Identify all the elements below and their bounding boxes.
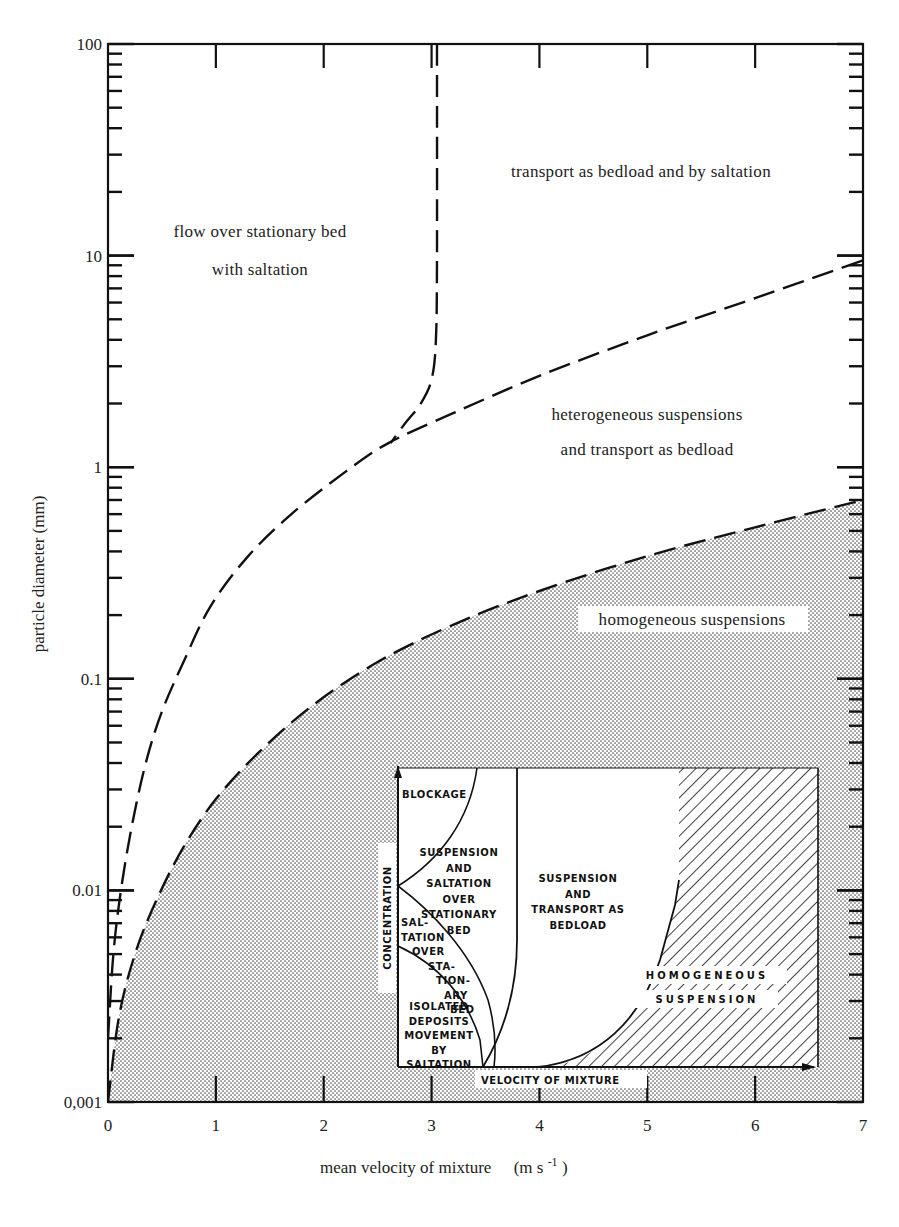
inset-label-line: HOMOGENEOUS: [646, 970, 768, 981]
x-tick-label: 2: [319, 1116, 328, 1135]
inset-x-axis-label: VELOCITY OF MIXTURE: [481, 1075, 620, 1086]
x-tick-label: 3: [427, 1116, 436, 1135]
y-tick-label: 0.01: [72, 881, 102, 900]
x-tick-label: 4: [535, 1116, 544, 1135]
inset-label-isolated-deposits: ISOLATEDDEPOSITSMOVEMENTBYSALTATION: [404, 1001, 474, 1070]
inset-label-line: AND: [565, 889, 591, 900]
x-tick-label: 6: [751, 1116, 760, 1135]
y-tick-label: 1: [94, 458, 103, 477]
x-tick-label: 0: [104, 1116, 113, 1135]
inset-label-line: ARY: [444, 990, 468, 1001]
y-tick-label: 100: [77, 35, 103, 54]
y-tick-label: 10: [85, 247, 102, 266]
x-tick-label: 5: [643, 1116, 652, 1135]
y-tick-label: 0,001: [64, 1093, 102, 1112]
label-homogeneous: homogeneous suspensions: [599, 610, 786, 629]
inset-label-line: SUSPENSION: [539, 873, 618, 884]
label-heterogeneous-1: heterogeneous suspensions: [551, 405, 742, 424]
x-axis-title-text: mean velocity of mixture: [320, 1158, 491, 1177]
label-bedload-saltation: transport as bedload and by saltation: [511, 162, 771, 181]
inset-label-line: TATION: [401, 932, 445, 943]
inset-label-line: SAL-: [401, 917, 429, 928]
phase-diagram-chart: 01234567 1001010.10.010,001 particle dia…: [0, 0, 899, 1227]
y-tick-labels: 1001010.10.010,001: [64, 35, 102, 1112]
x-axis-units-exponent: -1: [548, 1155, 558, 1169]
inset-label-line: SUSPENSION: [656, 994, 759, 1005]
x-tick-labels: 01234567: [104, 1116, 868, 1135]
inset-label-line: TRANSPORT AS: [531, 904, 624, 915]
inset-label-line: BY: [431, 1045, 447, 1056]
x-axis-units: (m s: [514, 1158, 544, 1177]
inset-label-line: OVER: [443, 894, 476, 905]
inset-label-line: OVER: [412, 946, 445, 957]
inset-label-line: STATIONARY: [421, 909, 497, 920]
inset-label-line: MOVEMENT: [404, 1030, 474, 1041]
inset-y-axis-label: CONCENTRATION: [382, 866, 393, 969]
x-tick-label: 7: [859, 1116, 868, 1135]
boundary-line-0: [391, 44, 437, 443]
y-axis-title: particle diameter (mm): [29, 496, 48, 653]
inset-label-line: SUSPENSION: [420, 847, 499, 858]
label-heterogeneous-2: and transport as bedload: [561, 440, 734, 459]
inset-diagram: VELOCITY OF MIXTURE CONCENTRATION BLOCKA…: [378, 766, 818, 1088]
label-flow-stationary-bed: flow over stationary bed: [174, 222, 347, 241]
inset-label-line: BED: [447, 925, 472, 936]
inset-label-blockage: BLOCKAGE: [402, 789, 467, 800]
inset-label-line: DEPOSITS: [409, 1016, 470, 1027]
inset-label-line: AND: [446, 863, 472, 874]
inset-label-line: SALTATION: [426, 878, 491, 889]
inset-label-line: SALTATION: [406, 1059, 471, 1070]
y-tick-label: 0.1: [81, 670, 102, 689]
inset-label-line: BEDLOAD: [549, 920, 606, 931]
label-with-saltation: with saltation: [212, 260, 308, 279]
inset-label-line: ISOLATED: [409, 1001, 469, 1012]
x-tick-label: 1: [212, 1116, 221, 1135]
x-axis-title: mean velocity of mixture (m s -1 ): [320, 1151, 568, 1177]
inset-label-line: TION-: [436, 975, 471, 986]
x-axis-units-close: ): [562, 1158, 568, 1177]
inset-label-line: STA-: [428, 961, 456, 972]
